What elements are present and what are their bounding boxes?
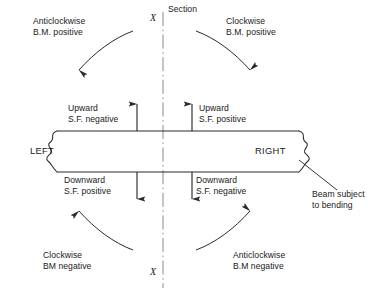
- sf-label-bottom-left-line2: S.F. positive: [64, 186, 111, 197]
- bm-label-bottom-right-line1: Anticlockwise: [233, 250, 285, 261]
- beam-right-label: RIGHT: [255, 146, 286, 157]
- sf-label-bottom-right: Downward S.F. negative: [196, 175, 246, 197]
- sf-label-top-right-line1: Upward: [199, 103, 246, 114]
- bm-label-bottom-left-line2: BM negative: [43, 261, 91, 272]
- sf-label-top-right-line2: S.F. positive: [199, 114, 246, 125]
- sf-label-bottom-left-line1: Downward: [64, 175, 111, 186]
- section-label: Section: [168, 4, 197, 15]
- bm-label-bottom-left-line1: Clockwise: [43, 250, 91, 261]
- beam-annotation-leader: [299, 160, 337, 190]
- bm-curve-bottom-right: [196, 211, 250, 250]
- bm-label-top-left: Anticlockwise B.M. positive: [33, 16, 85, 38]
- section-mark-bottom: X: [150, 266, 156, 277]
- sf-label-top-left: Upward S.F. negative: [68, 103, 118, 125]
- sf-label-bottom-left: Downward S.F. positive: [64, 175, 111, 197]
- beam-annotation-line1: Beam subject: [312, 189, 365, 200]
- bm-label-top-left-line2: B.M. positive: [33, 27, 85, 38]
- beam-left-label: LEFT: [30, 146, 54, 157]
- section-mark-top: X: [150, 12, 156, 23]
- bm-label-bottom-left: Clockwise BM negative: [43, 250, 91, 272]
- bm-curve-top-left: [79, 31, 133, 70]
- beam-annotation-line2: to bending: [312, 200, 365, 211]
- bm-label-top-right-line1: Clockwise: [226, 16, 276, 27]
- bm-label-top-left-line1: Anticlockwise: [33, 16, 85, 27]
- sf-label-top-left-line1: Upward: [68, 103, 118, 114]
- sf-label-bottom-right-line1: Downward: [196, 175, 246, 186]
- bm-label-top-right-line2: B.M. positive: [226, 27, 276, 38]
- sf-label-bottom-right-line2: S.F. negative: [196, 186, 246, 197]
- bm-curve-bottom-left: [79, 211, 133, 250]
- beam-annotation: Beam subject to bending: [312, 189, 365, 211]
- bm-label-top-right: Clockwise B.M. positive: [226, 16, 276, 38]
- sf-label-top-left-line2: S.F. negative: [68, 114, 118, 125]
- bm-label-bottom-right: Anticlockwise B.M negative: [233, 250, 285, 272]
- bm-label-bottom-right-line2: B.M negative: [233, 261, 285, 272]
- sf-label-top-right: Upward S.F. positive: [199, 103, 246, 125]
- beam-sign-convention-figure: Section X X Anticlockwise B.M. positive …: [0, 0, 382, 296]
